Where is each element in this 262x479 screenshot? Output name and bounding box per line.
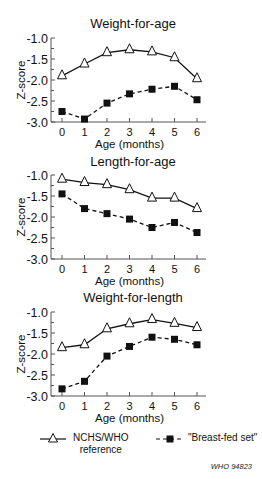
x-tick-label: 2: [104, 400, 110, 412]
square-marker: [149, 334, 156, 341]
square-marker: [59, 385, 66, 392]
legend-item-breastfed: "Breast-fed set": [156, 432, 257, 444]
y-axis-label: Z-score: [15, 335, 27, 374]
chart-weight-for-length: Weight-for-length -1.0-1.5-2.0-2.5-3.001…: [0, 0, 262, 430]
square-marker: [104, 353, 111, 360]
square-marker: [194, 341, 201, 348]
y-tick-label: -1.0: [26, 306, 48, 320]
y-tick-label: -1.5: [26, 327, 48, 341]
x-axis-label: Age (months): [95, 412, 164, 424]
y-tick-label: -3.0: [26, 390, 48, 404]
x-tick-label: 1: [81, 400, 87, 412]
legend-label: "Breast-fed set": [188, 432, 257, 444]
legend-label-line2: reference: [73, 444, 129, 456]
triangle-marker: [125, 318, 134, 327]
x-tick-label: 0: [59, 400, 65, 412]
triangle-marker: [193, 322, 202, 331]
square-marker: [81, 378, 88, 385]
triangle-marker: [148, 314, 157, 323]
y-tick-label: -2.0: [26, 348, 48, 362]
legend-item-reference: NCHS/WHO reference: [40, 432, 129, 456]
triangle-line-icon: [40, 432, 66, 444]
x-tick-label: 3: [126, 400, 132, 412]
x-tick-label: 6: [194, 400, 200, 412]
figure-credit: WHO 94823: [211, 462, 252, 471]
legend: NCHS/WHO reference "Breast-fed set": [0, 432, 262, 462]
square-marker: [171, 336, 178, 343]
triangle-marker: [170, 317, 179, 326]
triangle-marker: [103, 323, 112, 332]
y-tick-label: -2.5: [26, 369, 48, 383]
x-tick-label: 5: [171, 400, 177, 412]
square-marker: [126, 343, 133, 350]
x-tick-label: 4: [149, 400, 155, 412]
legend-label-line1: NCHS/WHO: [73, 432, 129, 444]
triangle-marker: [58, 342, 67, 351]
square-dashed-line-icon: [156, 432, 184, 444]
series-breastfed: [59, 334, 201, 393]
plot-area: -1.0-1.5-2.0-2.5-3.00123456Age (months)Z…: [0, 0, 262, 430]
